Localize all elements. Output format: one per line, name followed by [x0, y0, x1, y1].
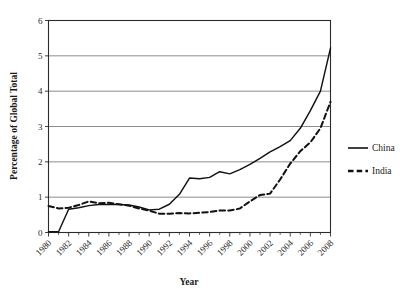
y-tick-label: 0	[38, 228, 43, 238]
x-axis-tick-labels: 1980198219841986198819901992199419961998…	[34, 237, 336, 257]
x-tick-label: 2006	[295, 237, 315, 257]
x-tick-label: 1994	[175, 237, 195, 257]
x-tick-label: 1996	[195, 237, 215, 257]
series-line-china	[49, 48, 331, 232]
x-tick-label: 1998	[215, 237, 235, 257]
x-tick-label: 1986	[94, 237, 114, 257]
x-tick-label: 1980	[34, 237, 54, 257]
y-axis-tick-labels: 0123456	[38, 16, 43, 238]
x-tick-label: 2000	[235, 237, 255, 257]
y-tick-label: 3	[38, 122, 43, 132]
gridlines	[49, 56, 331, 197]
legend-label-india: India	[372, 166, 392, 176]
legend-label-china: China	[372, 143, 395, 153]
x-tick-label: 1982	[54, 238, 74, 258]
x-axis-ticks	[49, 233, 331, 237]
x-tick-label: 1988	[114, 237, 134, 257]
y-tick-label: 5	[38, 51, 43, 61]
x-tick-label: 2002	[255, 238, 275, 258]
y-tick-label: 2	[38, 157, 43, 167]
x-axis-title: Year	[180, 277, 200, 287]
legend: ChinaIndia	[348, 143, 395, 176]
y-axis-title: Percentage of Global Total	[9, 72, 19, 180]
chart-figure: 0123456 19801982198419861988199019921994…	[0, 0, 418, 291]
y-tick-label: 4	[38, 86, 43, 96]
y-tick-label: 6	[38, 16, 43, 26]
x-tick-label: 2004	[275, 237, 295, 257]
line-chart: 0123456 19801982198419861988199019921994…	[0, 0, 418, 291]
y-tick-label: 1	[38, 192, 43, 202]
data-series	[49, 48, 331, 232]
x-tick-label: 1984	[74, 237, 94, 257]
x-tick-label: 1990	[134, 237, 154, 257]
x-tick-label: 2008	[316, 237, 336, 257]
x-tick-label: 1992	[154, 238, 174, 258]
